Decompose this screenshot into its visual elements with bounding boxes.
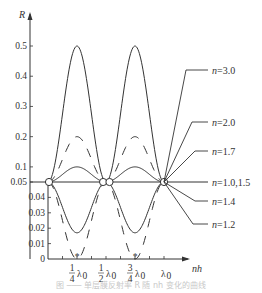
curve-n3.0 — [48, 46, 164, 182]
intersection-marker-circle — [106, 178, 113, 185]
series-label: n=1.2 — [212, 219, 235, 230]
series-label: n=1.7 — [212, 146, 235, 157]
y-tick-label: 0.4 — [15, 71, 27, 81]
series-labels: n=3.0n=2.0n=1.7n=1.0,1.5n=1.4n=1.2 — [164, 65, 250, 230]
y-tick-label: 0.01 — [28, 239, 45, 249]
y-tick-label: 0 — [40, 254, 45, 264]
leader-line — [164, 70, 208, 182]
curves — [48, 46, 164, 259]
x-tick-asterisk: * — [133, 252, 138, 262]
y-tick-label: 0.2 — [15, 132, 27, 142]
x-tick-numerator: 1 — [70, 263, 75, 273]
reflectance-chart: R0.50.40.30.20.10.050.040.030.020.010nh*… — [0, 0, 262, 293]
figure-caption: 图 ─── 单层膜反射率 R 随 nh 变化的曲线 — [0, 279, 262, 290]
y-tick-label: 0.05 — [10, 177, 27, 187]
intersection-marker-circle — [45, 178, 52, 185]
y-tick-label: 0.5 — [15, 41, 27, 51]
series-label: n=3.0 — [212, 65, 235, 76]
series-label: n=2.0 — [212, 117, 235, 128]
axes: R0.50.40.30.20.10.050.040.030.020.010nh*… — [10, 9, 208, 284]
y-tick-label: 0.3 — [15, 101, 27, 111]
y-tick-label: 0.03 — [28, 208, 45, 218]
y-axis-arrow-icon — [28, 12, 33, 20]
x-tick-numerator: 3 — [128, 263, 133, 273]
series-label: n=1.0,1.5 — [212, 177, 250, 188]
x-tick-numerator: 1 — [99, 263, 104, 273]
x-tick-lambda: λ — [161, 269, 166, 279]
x-axis-arrow-icon — [182, 257, 190, 262]
series-label: n=1.4 — [212, 196, 235, 207]
leader-line — [164, 151, 208, 182]
curve-n1.2 — [48, 182, 164, 259]
x-tick-lambda: λ — [106, 269, 111, 279]
x-axis-title: nh — [192, 263, 202, 274]
y-axis-title: R — [18, 9, 25, 20]
x-tick-asterisk: * — [75, 252, 80, 262]
y-tick-label: 0.1 — [15, 162, 27, 172]
y-tick-label: 0.04 — [28, 192, 45, 202]
x-tick-lambda: λ — [135, 269, 140, 279]
x-tick-lambda: λ — [77, 269, 82, 279]
curve-n2.0 — [48, 137, 164, 182]
leader-line — [164, 182, 208, 224]
leader-line — [164, 122, 208, 182]
curve-n1.4 — [48, 182, 164, 233]
y-tick-label: 0.02 — [28, 223, 45, 233]
